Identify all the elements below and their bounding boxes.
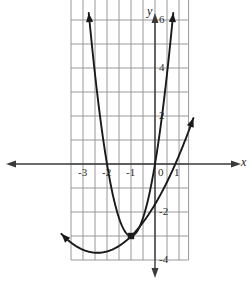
y-tick-label--2: -2 [159,206,168,217]
x-axis-arrow-left-icon [6,161,16,168]
y-axis-label: y [147,5,152,17]
axes [6,13,241,278]
x-tick-label-1: 1 [174,167,180,178]
coordinate-plane-svg [0,0,250,285]
y-tick-label-4: 4 [159,62,165,73]
marked-points [128,233,134,239]
y-axis-arrow-up-icon [152,13,159,23]
y-tick-label-6: 6 [159,14,165,25]
parabola-curves [61,13,193,253]
x-axis-arrow-right-icon [231,161,241,168]
y-tick-label--4: -4 [159,254,168,265]
graph-figure: -3 -2 -1 0 1 6 4 2 -2 -4 x y [0,0,250,285]
x-axis-label: x [241,156,246,168]
curve-arrow-icon [187,118,194,128]
y-axis-arrow-down-icon [152,268,159,278]
x-tick-label--3: -3 [78,167,87,178]
x-tick-label--2: -2 [102,167,111,178]
intersection-point [128,233,134,239]
wide-upward-parabola [61,118,193,253]
y-tick-label-2: 2 [159,110,165,121]
x-tick-label-0: 0 [158,167,164,178]
x-tick-label--1: -1 [126,167,135,178]
